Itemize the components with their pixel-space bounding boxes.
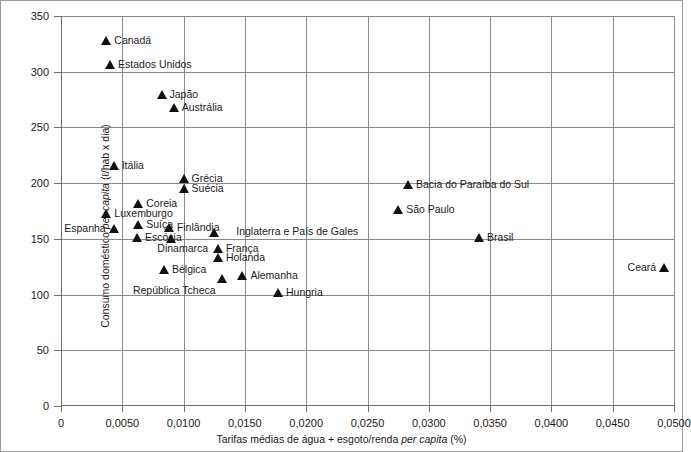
y-tick-label: 350 (31, 11, 49, 22)
gridline-horizontal (61, 350, 674, 351)
x-tick (613, 405, 614, 412)
data-point-label: Holanda (226, 252, 265, 263)
triangle-marker (101, 209, 111, 218)
gridline-vertical (674, 16, 675, 406)
x-axis-title: Tarifas médias de água + esgoto/renda pe… (1, 433, 682, 445)
x-tick (61, 405, 62, 412)
gridline-vertical (613, 16, 614, 406)
x-tick-label: 0,0300 (412, 418, 446, 429)
x-axis-title-italic: per capita (401, 433, 447, 445)
x-tick (490, 405, 491, 412)
data-point-label: Hungria (286, 287, 323, 298)
x-axis-title-pre: Tarifas médias de água + esgoto/renda (216, 433, 401, 445)
data-point-label: Bélgica (172, 264, 206, 275)
x-tick (184, 405, 185, 412)
triangle-marker (209, 228, 219, 237)
y-tick-label: 150 (31, 234, 49, 245)
x-axis-title-post: (%) (447, 433, 466, 445)
triangle-marker (213, 244, 223, 253)
y-tick (54, 295, 61, 296)
triangle-marker (273, 288, 283, 297)
triangle-marker (393, 205, 403, 214)
y-tick (54, 72, 61, 73)
y-tick-label: 250 (31, 122, 49, 133)
data-point-label: Alemanha (250, 270, 297, 281)
data-point-label: Austrália (182, 102, 223, 113)
x-tick (368, 405, 369, 412)
y-axis-line (61, 16, 62, 406)
gridline-vertical (184, 16, 185, 406)
x-tick (245, 405, 246, 412)
data-point-label: Inglaterra e País de Gales (236, 226, 358, 237)
data-point-label: Suécia (192, 183, 224, 194)
gridline-horizontal (61, 127, 674, 128)
x-tick-label: 0,0150 (228, 418, 262, 429)
y-tick-label: 0 (43, 401, 49, 412)
data-point-label: Itália (122, 160, 144, 171)
gridline-vertical (306, 16, 307, 406)
triangle-marker (179, 184, 189, 193)
y-tick-label: 50 (37, 345, 49, 356)
x-tick-label: 0,0350 (473, 418, 507, 429)
y-tick (54, 183, 61, 184)
x-tick-label: 0,0050 (105, 418, 139, 429)
triangle-marker (105, 60, 115, 69)
gridline-horizontal (61, 16, 674, 17)
triangle-marker (474, 233, 484, 242)
gridline-vertical (551, 16, 552, 406)
y-tick-label: 300 (31, 67, 49, 78)
data-point-label: Bacia do Paraíba do Sul (416, 179, 529, 190)
triangle-marker (133, 220, 143, 229)
x-tick-label: 0,0200 (289, 418, 323, 429)
triangle-marker (237, 271, 247, 280)
triangle-marker (101, 36, 111, 45)
x-tick (429, 405, 430, 412)
plot-area: CanadáEstados UnidosJapãoAustráliaItália… (61, 16, 674, 406)
gridline-vertical (490, 16, 491, 406)
data-point-label: Japão (170, 89, 199, 100)
y-tick (54, 350, 61, 351)
data-point-label: Espanha (64, 223, 105, 234)
x-tick (551, 405, 552, 412)
x-tick-label: 0,0250 (351, 418, 385, 429)
triangle-marker (132, 233, 142, 242)
gridline-vertical (368, 16, 369, 406)
y-tick (54, 127, 61, 128)
x-tick (306, 405, 307, 412)
gridline-vertical (245, 16, 246, 406)
y-tick (54, 16, 61, 17)
y-tick-label: 200 (31, 178, 49, 189)
triangle-marker (403, 180, 413, 189)
x-tick-label: 0,0100 (167, 418, 201, 429)
gridline-horizontal (61, 72, 674, 73)
data-point-label: São Paulo (406, 204, 454, 215)
triangle-marker (659, 263, 669, 272)
triangle-marker (217, 274, 227, 283)
data-point-label: Brasil (487, 232, 513, 243)
triangle-marker (109, 224, 119, 233)
data-point-label: Canadá (114, 35, 151, 46)
data-point-label: Dinamarca (157, 243, 208, 254)
y-tick-label: 100 (31, 290, 49, 301)
data-point-label: Ceará (628, 262, 657, 273)
y-tick (54, 239, 61, 240)
gridline-horizontal (61, 183, 674, 184)
x-tick-label: 0 (58, 418, 64, 429)
x-tick-label: 0,0500 (657, 418, 691, 429)
x-tick (122, 405, 123, 412)
y-tick (54, 406, 61, 407)
triangle-marker (159, 265, 169, 274)
triangle-marker (213, 253, 223, 262)
x-tick-label: 0,0400 (535, 418, 569, 429)
triangle-marker (179, 174, 189, 183)
data-point-label: Estados Unidos (118, 59, 192, 70)
triangle-marker (169, 103, 179, 112)
triangle-marker (109, 161, 119, 170)
x-tick-label: 0,0450 (596, 418, 630, 429)
triangle-marker (157, 90, 167, 99)
x-tick (674, 405, 675, 412)
data-point-label: República Tcheca (133, 285, 216, 296)
